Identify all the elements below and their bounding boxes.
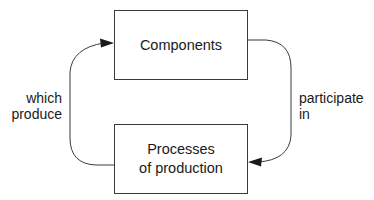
edge-label-line2: produce <box>11 106 62 122</box>
edge-label-participate-in: participate in <box>299 90 364 122</box>
node-components-label: Components <box>140 37 222 53</box>
edge-participate-in <box>248 40 291 162</box>
edge-label-line1: participate <box>299 90 364 106</box>
edge-label-line1: which <box>26 90 62 106</box>
node-processes-label-line2: of production <box>139 160 223 176</box>
arrowhead-right-icon <box>100 39 114 48</box>
node-processes-label-line1: Processes <box>147 141 215 157</box>
edge-label-line2: in <box>299 106 310 122</box>
node-components: Components <box>114 10 248 80</box>
edge-label-which-produce: which produce <box>11 90 62 122</box>
node-processes-of-production: Processes of production <box>114 124 248 194</box>
edge-which-produce <box>70 43 114 165</box>
arrowhead-left-icon <box>248 158 262 167</box>
